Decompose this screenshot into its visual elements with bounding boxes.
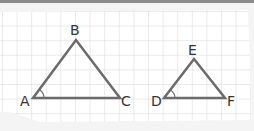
label-b: B xyxy=(70,22,80,38)
label-f: F xyxy=(227,93,235,109)
label-a: A xyxy=(20,93,30,109)
label-e: E xyxy=(188,42,197,58)
diagram-canvas: A B C D E F xyxy=(0,0,254,131)
label-d: D xyxy=(151,93,162,109)
graph-paper-diagram: A B C D E F xyxy=(0,0,254,131)
label-c: C xyxy=(121,93,131,109)
